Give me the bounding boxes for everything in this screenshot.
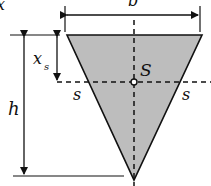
- centroid-label: S: [140, 60, 152, 80]
- centroid-offset-label: x: [33, 49, 42, 68]
- triangle-section-diagram: x b h x s S s s: [0, 0, 211, 186]
- width-label: b: [128, 0, 138, 10]
- height-label: h: [8, 98, 20, 119]
- centroid-marker: [131, 79, 137, 85]
- axis-label-right: s: [182, 85, 190, 104]
- height-dimension: h: [8, 37, 24, 174]
- centroid-offset-dimension: x s: [33, 37, 57, 80]
- width-dimension: b: [65, 0, 200, 32]
- axis-label-left: s: [73, 85, 81, 104]
- centroid-offset-subscript: s: [44, 61, 49, 72]
- corner-partial-label: x: [0, 0, 5, 14]
